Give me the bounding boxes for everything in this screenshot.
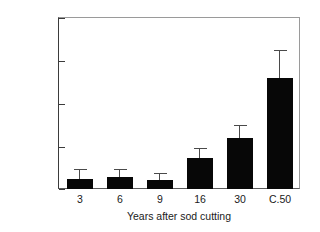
error-bar [119,170,120,177]
error-bar [279,51,280,79]
x-tick-label: C.50 [260,193,300,205]
bar-group [140,17,180,189]
chart-figure: N mineralization (g N m-2 yr-1) 0 5 10 1… [0,0,320,232]
bar[interactable] [67,179,93,189]
error-bar [239,126,240,138]
bar-series [58,17,300,189]
bar[interactable] [147,180,173,189]
bar[interactable] [107,177,133,189]
x-tick-label: 30 [220,193,260,205]
x-axis-label: Years after sod cutting [58,210,300,222]
bar-group [220,17,260,189]
error-bar-cap [194,148,207,149]
bar[interactable] [187,158,213,189]
x-tick-label: 9 [140,193,180,205]
bar-group [60,17,100,189]
error-bar-cap [114,169,127,170]
error-bar-cap [154,173,167,174]
x-tick-label: 6 [100,193,140,205]
bar-group [260,17,300,189]
error-bar [159,174,160,179]
bar[interactable] [227,138,253,189]
error-bar-cap [74,169,87,170]
bar-group [100,17,140,189]
x-tick-label: 16 [180,193,220,205]
error-bar-cap [234,125,247,126]
bar-group [180,17,220,189]
error-bar [199,149,200,158]
bar[interactable] [267,78,293,189]
x-tick-label: 3 [60,193,100,205]
error-bar-cap [274,50,287,51]
error-bar [79,170,80,179]
